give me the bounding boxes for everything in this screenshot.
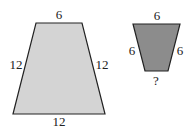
small-trapezoid [133, 24, 180, 71]
small-top-label: 6 [154, 8, 161, 23]
large-right-label: 12 [96, 57, 109, 72]
large-trapezoid [13, 23, 105, 114]
small-left-label: 6 [129, 43, 136, 58]
large-top-label: 6 [56, 7, 63, 22]
large-bottom-label: 12 [53, 114, 66, 128]
small-right-label: 6 [177, 43, 184, 58]
small-bottom-label: ? [153, 73, 159, 88]
similar-trapezoids-diagram: 6 12 12 12 6 6 6 ? [0, 0, 189, 128]
large-left-label: 12 [10, 57, 23, 72]
